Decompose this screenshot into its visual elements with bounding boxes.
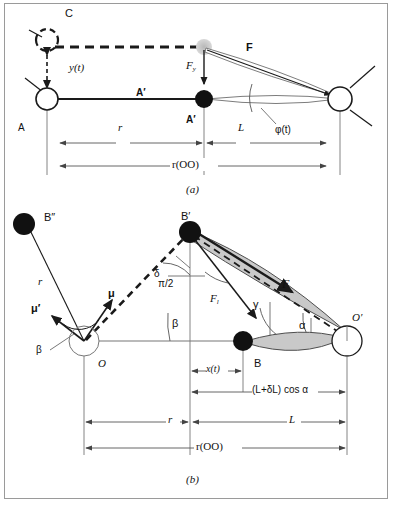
label-dim-roo-a: r(OO) — [172, 159, 199, 170]
ghost-circle-C — [29, 29, 58, 51]
label-force-Fy-sub: y — [193, 65, 196, 73]
force-lens-a — [205, 48, 340, 97]
label-alpha: α — [299, 320, 305, 331]
label-A: A — [18, 123, 25, 133]
label-dim-r-b: r — [168, 414, 172, 425]
label-O: O — [98, 358, 106, 369]
radius-line-Bdd-O — [28, 226, 84, 341]
label-dim-r-a: r — [118, 122, 122, 133]
mass-B-double-prime — [13, 213, 35, 235]
label-C: C — [65, 8, 73, 19]
label-phi-of-t: φ(t) — [275, 125, 291, 135]
label-beta-small: β — [36, 345, 42, 355]
mass-B — [233, 331, 253, 351]
pivot-O-right-spokes — [340, 66, 375, 175]
pivot-O-right — [328, 87, 352, 111]
label-dim-projection: (L+δL) cos α — [252, 385, 308, 395]
label-r-vector: r — [38, 276, 42, 287]
label-force-Fy: Fy — [186, 60, 196, 73]
label-B-double-prime: B″ — [44, 212, 55, 223]
diagram-vector-layer — [0, 0, 393, 505]
label-O-prime: O′ — [352, 312, 362, 323]
label-delta: δ — [154, 269, 160, 279]
label-y-of-t: y(t) — [69, 62, 84, 73]
label-force-F-b: F — [282, 278, 289, 290]
link-lens-lower-b — [246, 332, 344, 350]
caption-b: (b) — [186, 474, 199, 485]
label-pi-over-2: π/2 — [158, 279, 173, 289]
label-force-Fy-main: F — [186, 59, 193, 71]
label-A-prime-rod: A′ — [133, 88, 149, 98]
label-force-Fl-main: F — [210, 292, 217, 304]
label-mu: μ — [108, 288, 115, 299]
panel-a-graphics — [25, 29, 375, 175]
label-A-prime-bold: A′ — [186, 115, 196, 125]
label-B-prime: B′ — [181, 211, 190, 222]
label-force-Fl-sub: l — [217, 298, 219, 306]
mass-A-prime — [195, 90, 213, 108]
label-dim-L-b: L — [289, 414, 295, 425]
mu-prime-vector — [52, 316, 84, 341]
figure-canvas: C y(t) A A′ A′ F Fy φ(t) r L r(OO) (a) B… — [0, 0, 393, 505]
label-beta-large: β — [172, 318, 178, 329]
pivot-A — [36, 88, 58, 110]
label-dim-L-a: L — [238, 122, 244, 133]
label-gamma: γ — [253, 299, 259, 310]
force-lens-upper-b — [188, 231, 344, 333]
mass-B-prime — [179, 221, 201, 243]
label-force-F-a: F — [246, 42, 253, 53]
beta-large-arc — [168, 313, 170, 341]
label-dim-roo-b: r(OO) — [196, 441, 223, 452]
caption-a: (a) — [186, 184, 199, 195]
link-lens-a — [206, 96, 338, 104]
label-force-Fl: Fl — [210, 293, 219, 306]
label-dim-x-of-t: x(t) — [206, 364, 220, 374]
panel-b-graphics — [13, 213, 362, 455]
label-mu-prime: μ′ — [31, 303, 40, 314]
label-B: B — [254, 358, 261, 369]
